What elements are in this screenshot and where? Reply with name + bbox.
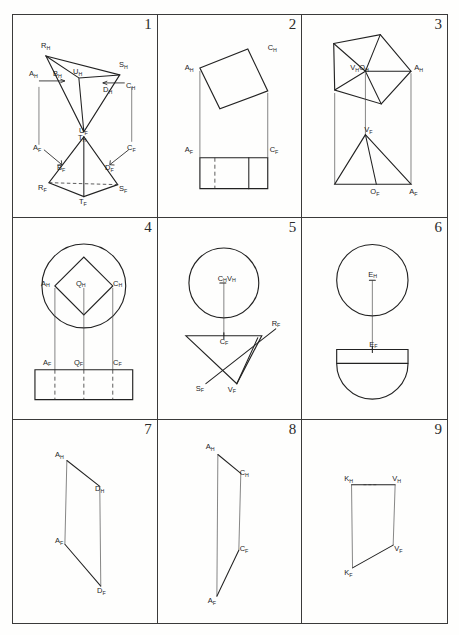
worksheet-sheet: 1 RH SH TH UH AH BH: [0, 0, 459, 635]
label-CF: CF: [270, 145, 279, 154]
label-BF: BF: [57, 163, 65, 172]
label-CH: CH: [240, 468, 249, 477]
panel-1-figure: [13, 15, 157, 217]
label-VH-OH: VHOH: [350, 63, 369, 72]
label-AF: AF: [185, 145, 193, 154]
label-OF: OF: [370, 187, 379, 196]
panel-5[interactable]: 5 CHVH CF RF SF VF: [158, 218, 303, 421]
label-UF: UF: [79, 126, 88, 135]
label-CH: CH: [126, 81, 135, 90]
panel-2-figure: [158, 15, 302, 217]
label-RF: RF: [38, 183, 47, 192]
label-DF: DF: [105, 163, 114, 172]
panel-2[interactable]: 2 AH CH AF CF: [158, 15, 303, 218]
panel-8[interactable]: 8 AH CH CF AF: [158, 420, 303, 623]
panel-6-figure: [302, 218, 447, 420]
label-RH: RH: [41, 41, 50, 50]
label-TF: TF: [79, 197, 87, 206]
label-AH: AH: [55, 450, 64, 459]
label-DH: DH: [103, 85, 112, 94]
label-AF: AF: [409, 187, 417, 196]
label-AH: AH: [185, 63, 194, 72]
label-CF: CF: [240, 544, 249, 553]
panel-6[interactable]: 6 EH EF: [302, 218, 447, 421]
panel-4[interactable]: 4 AH QH CH AF QF CF: [13, 218, 158, 421]
label-QF: QF: [74, 358, 83, 367]
label-CF: CF: [113, 358, 122, 367]
label-CH-VH: CHVH: [218, 274, 236, 283]
panel-9[interactable]: 9 KH VH VF KF: [302, 420, 447, 623]
label-AH: AH: [206, 442, 215, 451]
panel-grid: 1 RH SH TH UH AH BH: [12, 14, 448, 624]
label-DF: DF: [97, 586, 106, 595]
panel-7-figure: [13, 420, 157, 623]
label-VF: VF: [364, 125, 372, 134]
panel-7[interactable]: 7 AH DH AF DF: [13, 420, 158, 623]
label-CH: CH: [113, 279, 122, 288]
label-SF: SF: [196, 384, 204, 393]
panel-8-figure: [158, 420, 302, 623]
label-EF: EF: [369, 340, 377, 349]
label-QH: QH: [76, 279, 86, 288]
label-SF: SF: [119, 184, 127, 193]
label-AF: AF: [208, 596, 216, 605]
label-DH: DH: [95, 484, 104, 493]
panel-1[interactable]: 1 RH SH TH UH AH BH: [13, 15, 158, 218]
label-VF: VF: [394, 544, 402, 553]
label-CF: CF: [220, 337, 229, 346]
label-EH: EH: [368, 270, 377, 279]
label-RF: RF: [272, 319, 281, 328]
label-AH: AH: [41, 279, 50, 288]
label-BH: BH: [53, 69, 62, 78]
label-AH: AH: [29, 69, 38, 78]
label-AF: AF: [43, 358, 51, 367]
label-KH: KH: [344, 474, 353, 483]
panel-3[interactable]: 3 VHOH AH VF OF AF: [302, 15, 447, 218]
label-CF: CF: [127, 143, 136, 152]
label-CH: CH: [268, 43, 277, 52]
label-VF: VF: [228, 385, 236, 394]
label-KF: KF: [344, 568, 352, 577]
label-AF: AF: [33, 143, 41, 152]
label-VH: VH: [392, 474, 401, 483]
label-UH: UH: [73, 67, 82, 76]
panel-9-figure: [302, 420, 447, 623]
label-AF: AF: [55, 536, 63, 545]
panel-4-figure: [13, 218, 157, 420]
label-SH: SH: [119, 60, 128, 69]
label-AH: AH: [414, 63, 423, 72]
